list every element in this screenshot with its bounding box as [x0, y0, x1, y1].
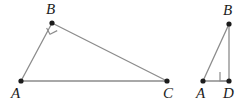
vertex-label-a: A — [11, 86, 20, 101]
vertex-point-c — [164, 78, 169, 83]
vertex-label-c: C — [163, 86, 173, 101]
triangle-abc — [18, 20, 169, 83]
vertex-point-b2 — [226, 21, 231, 26]
vertex-label-a2: A — [196, 86, 205, 101]
triangle-abd — [200, 21, 231, 83]
vertex-point-a2 — [200, 78, 205, 83]
vertex-label-b2: B — [223, 3, 232, 18]
segment-bc — [52, 23, 167, 81]
segment-a2b2 — [203, 24, 229, 81]
vertex-label-b: B — [46, 2, 55, 17]
segment-ab — [21, 23, 52, 81]
geometry-figure: A B C A B D — [0, 0, 245, 106]
vertex-point-a — [18, 78, 23, 83]
vertex-point-b — [49, 20, 54, 25]
vertex-label-d: D — [223, 86, 234, 101]
vertex-point-d — [226, 78, 231, 83]
figure-canvas — [0, 0, 245, 106]
